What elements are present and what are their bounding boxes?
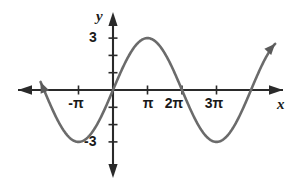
x-tick-label-pi: π	[139, 96, 157, 110]
curve-end-arrow	[41, 82, 50, 94]
x-axis-arrow-right	[269, 85, 283, 95]
graph-figure: y x 3 -3 -π π 2π 3π	[0, 0, 301, 195]
curve-end-arrow	[264, 44, 275, 55]
y-tick-label-positive-three: 3	[89, 30, 97, 44]
x-axis-label: x	[277, 97, 285, 112]
x-tick-label-negative-pi: -π	[62, 96, 90, 110]
x-tick-label-three-pi: 3π	[200, 96, 228, 110]
y-tick-label-negative-three: -3	[84, 134, 96, 148]
y-axis-label: y	[96, 9, 103, 24]
x-axis-arrow-left	[18, 85, 32, 95]
y-axis-arrow-down	[108, 164, 117, 178]
x-tick-label-two-pi: 2π	[160, 96, 188, 110]
x-axis	[18, 85, 283, 95]
curve-direction-arrows	[41, 44, 276, 94]
y-axis-arrow-up	[108, 12, 117, 26]
